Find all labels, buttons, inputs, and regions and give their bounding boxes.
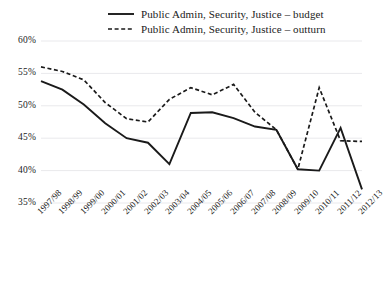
y-axis-tick-label: 40% xyxy=(2,165,36,175)
y-axis-tick-label: 45% xyxy=(2,132,36,142)
y-axis-tick-label: 35% xyxy=(2,197,36,207)
y-axis-tick-label: 55% xyxy=(2,67,36,77)
series-line-outturn xyxy=(41,67,362,169)
y-axis-tick-label: 50% xyxy=(2,100,36,110)
series-line-budget xyxy=(41,81,362,189)
y-axis-tick-label: 60% xyxy=(2,35,36,45)
